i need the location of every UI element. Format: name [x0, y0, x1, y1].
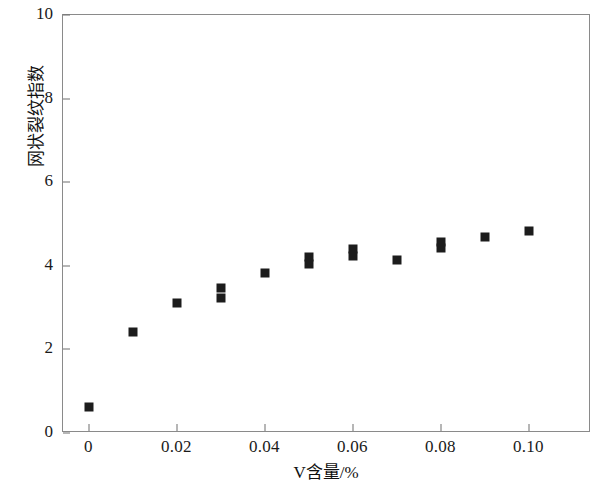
- y-tick-0: [63, 433, 70, 434]
- data-point: [217, 294, 226, 303]
- x-tick-label-1: 0.02: [161, 437, 192, 457]
- x-tick-label-2: 0.04: [249, 437, 280, 457]
- scatter-points-layer: [63, 15, 589, 431]
- data-point: [85, 402, 94, 411]
- y-axis-title: 网状裂纹指数: [22, 0, 47, 236]
- data-point: [393, 256, 402, 265]
- y-tick-label-1: 2: [0, 338, 53, 358]
- data-point: [525, 227, 534, 236]
- data-point: [173, 298, 182, 307]
- x-axis-title: V含量/%: [62, 458, 590, 482]
- data-point: [217, 283, 226, 292]
- x-tick-label-3: 0.06: [337, 437, 368, 457]
- data-point: [305, 260, 314, 269]
- data-point: [349, 251, 358, 260]
- data-point: [129, 327, 138, 336]
- chart-figure: 00.020.040.060.080.10 0246810 V含量/% 网状裂纹…: [0, 0, 599, 482]
- y-tick-label-2: 4: [0, 255, 53, 275]
- x-tick-label-4: 0.08: [425, 437, 456, 457]
- data-point: [437, 244, 446, 253]
- data-point: [481, 233, 490, 242]
- y-tick-label-0: 0: [0, 422, 53, 442]
- data-point: [261, 268, 270, 277]
- x-tick-label-0: 0: [84, 437, 93, 457]
- x-tick-label-5: 0.10: [513, 437, 544, 457]
- plot-area: [62, 14, 590, 432]
